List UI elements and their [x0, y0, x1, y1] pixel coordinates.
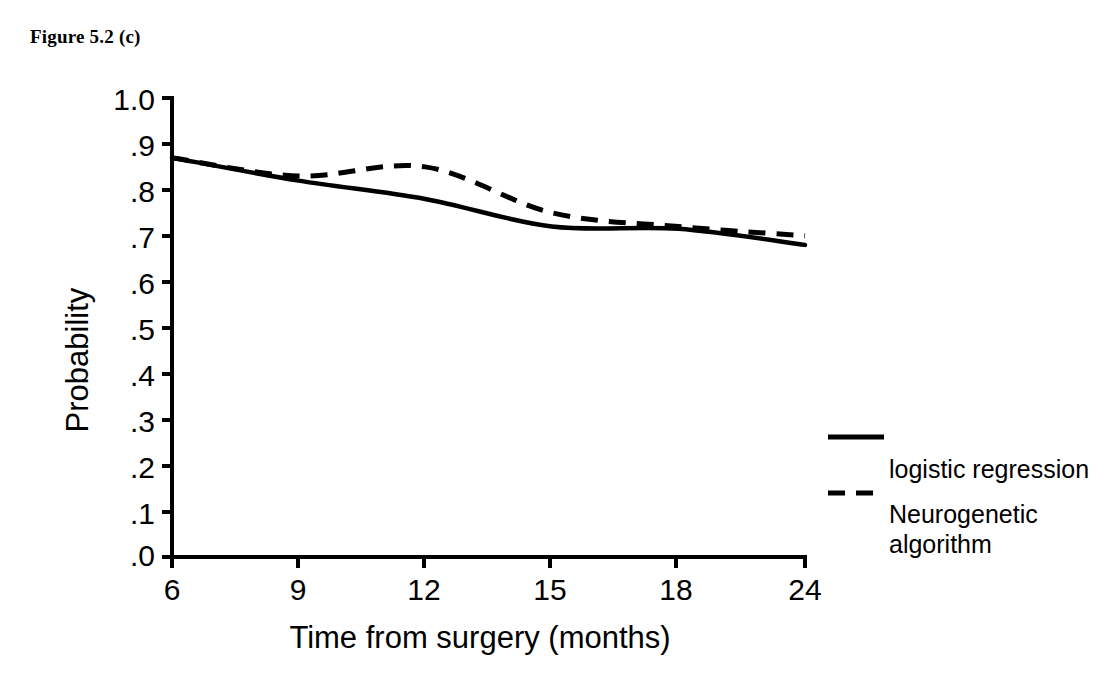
legend-label-algorithm: algorithm — [889, 530, 992, 558]
y-tick-label-.7: .7 — [130, 221, 155, 254]
x-tick-label-12: 12 — [407, 573, 440, 606]
x-tick-label-24: 24 — [788, 573, 821, 606]
x-tick-label-15: 15 — [533, 573, 566, 606]
y-tick-label-.0: .0 — [130, 539, 155, 572]
x-tick-label-18: 18 — [659, 573, 692, 606]
x-axis-title: Time from surgery (months) — [289, 620, 670, 655]
probability-line-chart: 1.0 .9 .8 .7 .6 .5 .4 .3 .2 .1 .0 6 9 12… — [0, 0, 1116, 691]
y-tick-label-.5: .5 — [130, 313, 155, 346]
y-axis-title: Probability — [60, 287, 95, 432]
figure-page: Figure 5.2 (c) 1.0 .9 .8 .7 .6 .5 .4 .3 — [0, 0, 1116, 691]
chart-legend: logistic regression Neurogenetic algorit… — [828, 437, 1089, 558]
y-tick-label-.9: .9 — [130, 129, 155, 162]
legend-label-neurogenetic: Neurogenetic — [889, 500, 1038, 528]
y-tick-label-.4: .4 — [130, 359, 155, 392]
x-tick-label-9: 9 — [290, 573, 307, 606]
y-tick-label-1.0: 1.0 — [113, 83, 155, 116]
legend-label-logistic-regression: logistic regression — [889, 455, 1089, 483]
y-tick-label-.2: .2 — [130, 451, 155, 484]
series-line-logistic-regression — [172, 158, 805, 245]
y-tick-label-.8: .8 — [130, 175, 155, 208]
y-tick-label-.6: .6 — [130, 267, 155, 300]
series-line-neurogenetic-algorithm — [172, 158, 805, 236]
y-tick-label-.1: .1 — [130, 497, 155, 530]
y-tick-label-.3: .3 — [130, 405, 155, 438]
x-tick-label-6: 6 — [164, 573, 181, 606]
